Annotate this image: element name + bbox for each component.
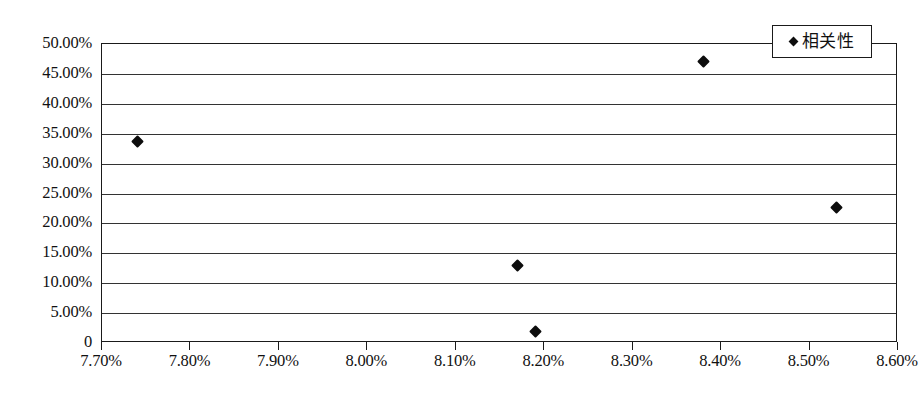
data-point-marker (697, 56, 710, 69)
x-axis-tick-mark (366, 342, 367, 350)
y-axis-tick-label: 45.00% (0, 65, 92, 82)
gridline (102, 253, 896, 254)
y-axis-tick-label: 20.00% (0, 214, 92, 231)
legend-diamond-icon (788, 37, 798, 47)
y-axis-tick-label: 10.00% (0, 274, 92, 291)
x-axis-tick-mark (809, 342, 810, 350)
x-axis-tick-mark (632, 342, 633, 350)
y-axis-tick-label: 50.00% (0, 35, 92, 52)
x-axis-tick-label: 8.20% (498, 352, 588, 370)
x-axis-tick-mark (720, 342, 721, 350)
y-axis-tick-label: 40.00% (0, 95, 92, 112)
gridline (102, 194, 896, 195)
x-axis-tick-label: 7.90% (233, 352, 323, 370)
plot-area (101, 43, 897, 342)
gridline (102, 164, 896, 165)
x-axis-tick-label: 8.30% (587, 352, 677, 370)
data-point-marker (529, 325, 542, 338)
y-axis-tick-label: 15.00% (0, 244, 92, 261)
gridline (102, 313, 896, 314)
x-axis-tick-label: 7.80% (144, 352, 234, 370)
x-axis-tick-label: 7.70% (56, 352, 146, 370)
x-axis-tick-mark (897, 342, 898, 350)
y-axis-tick-label: 0 (0, 334, 92, 351)
data-point-marker (830, 201, 843, 214)
y-axis-tick-label: 35.00% (0, 125, 92, 142)
gridline (102, 74, 896, 75)
x-axis-tick-label: 8.50% (764, 352, 854, 370)
x-axis-tick-label: 8.10% (410, 352, 500, 370)
x-axis-tick-mark (189, 342, 190, 350)
x-axis-tick-label: 8.60% (852, 352, 924, 370)
gridline (102, 223, 896, 224)
x-axis-tick-label: 8.40% (675, 352, 765, 370)
y-axis-tick-label: 30.00% (0, 155, 92, 172)
y-axis-tick-label: 25.00% (0, 185, 92, 202)
legend-entry-label: 相关性 (802, 33, 855, 50)
x-axis-tick-mark (278, 342, 279, 350)
y-axis-tick-label: 5.00% (0, 304, 92, 321)
scatter-chart: 50.00%45.00%40.00%35.00%30.00%25.00%20.0… (0, 0, 924, 417)
gridline (102, 283, 896, 284)
x-axis-tick-mark (455, 342, 456, 350)
x-axis-tick-mark (543, 342, 544, 350)
chart-legend: 相关性 (772, 25, 872, 58)
x-axis-tick-mark (101, 342, 102, 350)
x-axis-tick-label: 8.00% (321, 352, 411, 370)
gridline (102, 104, 896, 105)
data-point-marker (131, 135, 144, 148)
data-point-marker (511, 259, 524, 272)
gridline (102, 134, 896, 135)
